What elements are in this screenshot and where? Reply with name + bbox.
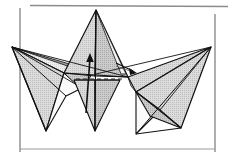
top-rule bbox=[30, 6, 228, 7]
origami-diagram-svg bbox=[0, 0, 228, 158]
origami-figure: Origami folding diagram — three-point st… bbox=[0, 0, 228, 158]
